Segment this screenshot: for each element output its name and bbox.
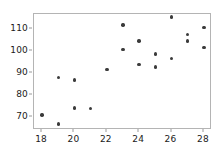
y-axis-tick-label: 100 xyxy=(10,45,28,55)
data-point xyxy=(57,122,60,125)
y-axis-tick-mark xyxy=(29,28,32,29)
x-axis-tick-mark xyxy=(41,129,42,132)
data-point xyxy=(137,39,140,42)
data-point xyxy=(154,52,157,55)
data-point xyxy=(186,33,189,36)
y-axis-tick-labels: 708090100110 xyxy=(0,0,28,159)
y-axis-tick-mark xyxy=(29,115,32,116)
data-point xyxy=(154,65,157,68)
x-axis-tick-mark xyxy=(73,129,74,132)
data-point xyxy=(73,78,76,81)
x-axis-tick-mark xyxy=(202,129,203,132)
data-point xyxy=(40,113,43,116)
data-point xyxy=(202,26,205,29)
x-axis-tick-label: 20 xyxy=(68,134,80,144)
x-axis-tick-mark xyxy=(105,129,106,132)
x-axis-tick-mark xyxy=(170,129,171,132)
x-axis-tick-mark xyxy=(138,129,139,132)
data-point xyxy=(57,76,60,79)
x-axis-tick-label: 18 xyxy=(35,134,47,144)
y-axis-tick-mark xyxy=(29,93,32,94)
data-point xyxy=(105,68,108,71)
x-axis-tick-label: 24 xyxy=(132,134,144,144)
data-point xyxy=(137,63,140,66)
y-axis-tick-label: 110 xyxy=(10,23,28,33)
y-axis-tick-label: 70 xyxy=(16,111,28,121)
y-axis-tick-label: 80 xyxy=(16,89,28,99)
data-point xyxy=(170,57,173,60)
data-point xyxy=(121,23,124,26)
data-points-layer xyxy=(34,14,210,128)
y-axis-tick-mark xyxy=(29,72,32,73)
data-point xyxy=(202,46,205,49)
data-point xyxy=(121,48,124,51)
x-axis-tick-label: 26 xyxy=(165,134,177,144)
y-axis-tick-mark xyxy=(29,50,32,51)
data-point xyxy=(186,39,189,42)
x-axis-tick-label: 22 xyxy=(100,134,112,144)
data-point xyxy=(170,15,173,18)
x-axis-tick-label: 28 xyxy=(197,134,209,144)
scatter-plot-figure: 708090100110 182022242628 xyxy=(0,0,223,159)
y-axis-tick-label: 90 xyxy=(16,67,28,77)
data-point xyxy=(89,107,92,110)
data-point xyxy=(73,106,76,109)
plot-area-frame xyxy=(33,13,211,129)
